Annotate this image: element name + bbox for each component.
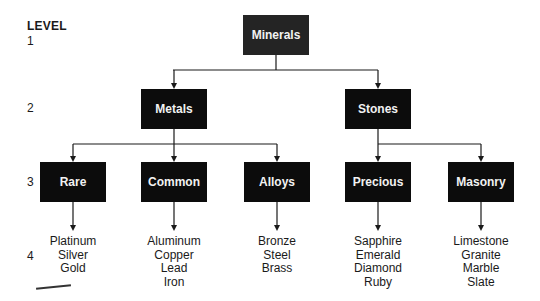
leaf-item: Slate <box>436 276 526 290</box>
leaf-item: Lead <box>129 262 219 276</box>
level-label-3: 3 <box>27 175 34 189</box>
leaf-item: Marble <box>436 262 526 276</box>
node-precious: Precious <box>345 162 411 202</box>
leaf-item: Bronze <box>232 235 322 249</box>
leaf-item: Diamond <box>333 262 423 276</box>
node-minerals: Minerals <box>243 15 309 55</box>
leaf-item: Ruby <box>333 276 423 290</box>
node-common: Common <box>141 162 207 202</box>
node-alloys: Alloys <box>244 162 310 202</box>
leaf-group-common: Aluminum Copper Lead Iron <box>129 235 219 289</box>
leaf-group-rare: Platinum Silver Gold <box>28 235 118 276</box>
leaf-group-alloys: Bronze Steel Brass <box>232 235 322 276</box>
level-label-2: 2 <box>27 101 34 115</box>
leaf-item: Silver <box>28 249 118 263</box>
node-metals: Metals <box>141 89 207 129</box>
leaf-item: Copper <box>129 249 219 263</box>
node-rare: Rare <box>40 162 106 202</box>
node-stones: Stones <box>345 89 411 129</box>
level-label-1: 1 <box>27 34 34 48</box>
node-masonry: Masonry <box>448 162 514 202</box>
leaf-group-precious: Sapphire Emerald Diamond Ruby <box>333 235 423 289</box>
leaf-item: Sapphire <box>333 235 423 249</box>
leaf-group-masonry: Limestone Granite Marble Slate <box>436 235 526 289</box>
leaf-item: Emerald <box>333 249 423 263</box>
leaf-item: Granite <box>436 249 526 263</box>
leaf-item: Iron <box>129 276 219 290</box>
leaf-item: Gold <box>28 262 118 276</box>
leaf-item: Limestone <box>436 235 526 249</box>
leaf-item: Brass <box>232 262 322 276</box>
leaf-item: Platinum <box>28 235 118 249</box>
level-header: LEVEL <box>27 19 67 33</box>
leaf-item: Steel <box>232 249 322 263</box>
leaf-item: Aluminum <box>129 235 219 249</box>
